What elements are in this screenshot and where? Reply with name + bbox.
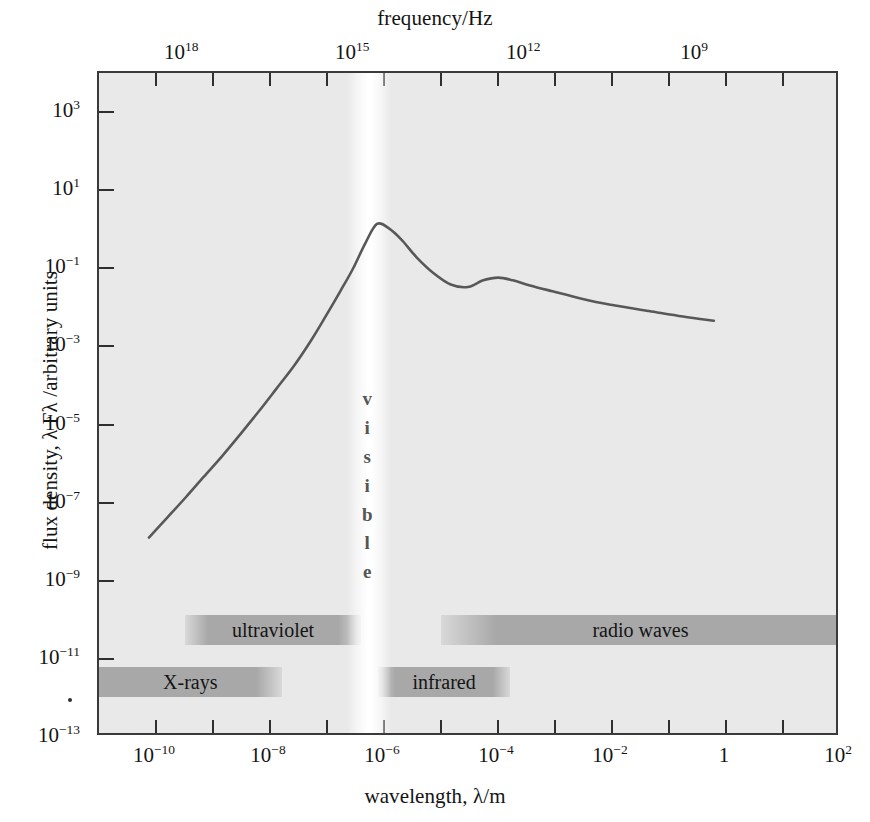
frequency-tick-label: 1012 bbox=[506, 40, 540, 65]
y-tick-label: 10−3 bbox=[0, 332, 80, 357]
y-tick-label: 10−11 bbox=[0, 644, 80, 669]
y-tick-label: 10−9 bbox=[0, 566, 80, 591]
bottom-axis-title: wavelength, λ/m bbox=[0, 784, 870, 809]
frequency-tick-label: 1018 bbox=[164, 40, 198, 65]
y-tick-label: 10−5 bbox=[0, 410, 80, 435]
spectrum-curve bbox=[99, 73, 836, 733]
spectrum-curve-path bbox=[149, 223, 714, 537]
visible-letter: b bbox=[362, 501, 373, 530]
top-axis-title: frequency/Hz bbox=[0, 6, 870, 31]
x-tick-label: 1 bbox=[719, 743, 730, 768]
stray-ink-mark bbox=[68, 698, 72, 702]
visible-letter: s bbox=[363, 443, 370, 472]
x-tick-label: 10−10 bbox=[133, 743, 175, 768]
y-tick-label: 10−1 bbox=[0, 254, 80, 279]
frequency-tick-label: 109 bbox=[680, 40, 708, 65]
x-tick-label: 10−2 bbox=[592, 743, 627, 768]
x-tick-label: 10−8 bbox=[250, 743, 285, 768]
x-tick-label: 10−4 bbox=[478, 743, 513, 768]
y-tick-label: 10−7 bbox=[0, 488, 80, 513]
plot-area: X-raysultravioletinfraredradio waves bbox=[97, 71, 838, 735]
y-tick-label: 10−13 bbox=[0, 723, 80, 748]
visible-band-label: visible bbox=[362, 385, 373, 587]
y-tick-label: 101 bbox=[0, 176, 80, 201]
frequency-tick-label: 1015 bbox=[335, 40, 369, 65]
visible-letter: i bbox=[365, 472, 370, 501]
y-tick-label: 103 bbox=[0, 98, 80, 123]
visible-letter: i bbox=[365, 414, 370, 443]
visible-letter: l bbox=[365, 529, 370, 558]
visible-letter: v bbox=[362, 385, 372, 414]
x-tick-label: 102 bbox=[824, 743, 852, 768]
x-tick-label: 10−6 bbox=[364, 743, 399, 768]
spectrum-figure: frequency/Hz flux density, λ Fλ /arbitra… bbox=[0, 0, 870, 822]
visible-letter: e bbox=[363, 558, 371, 587]
